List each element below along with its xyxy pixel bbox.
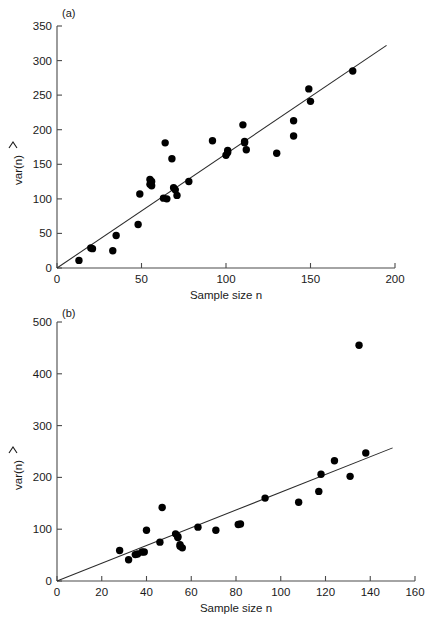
panel-a-yticklabel-100: 100 <box>33 193 52 205</box>
data-point <box>241 139 248 146</box>
panel-b-y-ticks <box>57 322 62 581</box>
data-point <box>331 457 338 464</box>
regression-line <box>57 45 387 268</box>
panel-b-xticklabel-0: 0 <box>54 586 60 598</box>
data-point <box>136 190 143 197</box>
data-point <box>156 538 163 545</box>
panel-b-yticklabel-200: 200 <box>33 471 52 483</box>
panel-a-xticklabel-100: 100 <box>216 273 235 285</box>
data-point <box>243 146 250 153</box>
panel-b-yticklabel-0: 0 <box>46 575 52 587</box>
data-point <box>109 247 116 254</box>
data-point <box>239 121 246 128</box>
panel-a-x-ticks <box>57 263 395 268</box>
data-point <box>349 67 356 74</box>
panel-b-xticklabel-160: 160 <box>405 586 424 598</box>
panel-a-y-ticklabels: 350 300 250 200 150 100 50 0 <box>33 20 52 274</box>
data-point <box>112 232 119 239</box>
data-point <box>362 449 369 456</box>
data-point <box>317 471 324 478</box>
data-point <box>179 544 186 551</box>
data-point <box>194 523 201 530</box>
panel-a-yticklabel-50: 50 <box>39 227 52 239</box>
panel-a-ylabel-group: var(n) <box>9 142 24 185</box>
panel-a-ylabel: var(n) <box>12 155 24 185</box>
panel-a-yticklabel-250: 250 <box>33 89 52 101</box>
panel-a: (a) var(n) 350 300 <box>0 0 442 312</box>
data-point <box>143 527 150 534</box>
panel-a-xticklabel-0: 0 <box>54 273 60 285</box>
panel-b-xticklabel-80: 80 <box>230 586 243 598</box>
data-point <box>290 132 297 139</box>
panel-b-xticklabel-140: 140 <box>361 586 380 598</box>
panel-b-canvas: (b) var(n) 500 400 300 200 100 <box>0 300 442 624</box>
panel-b-label: (b) <box>62 307 75 319</box>
panel-b-ylabel-hat-icon <box>9 447 17 453</box>
panel-b-x-ticks <box>57 576 415 581</box>
panel-b-ylabel-group: var(n) <box>9 447 24 490</box>
panel-b-xticklabel-20: 20 <box>95 586 108 598</box>
data-point <box>209 137 216 144</box>
panel-a-label: (a) <box>62 7 75 19</box>
panel-a-yticklabel-200: 200 <box>33 124 52 136</box>
data-point <box>158 504 165 511</box>
panel-b-xticklabel-40: 40 <box>140 586 153 598</box>
panel-b-ylabel: var(n) <box>12 460 24 490</box>
data-point <box>134 221 141 228</box>
data-point <box>173 192 180 199</box>
panel-b-points <box>116 342 370 564</box>
panel-b-y-ticklabels: 500 400 300 200 100 0 <box>33 316 52 587</box>
panel-b-xticklabel-100: 100 <box>271 586 290 598</box>
data-point <box>290 117 297 124</box>
data-point <box>305 85 312 92</box>
data-point <box>75 257 82 264</box>
data-point <box>355 342 362 349</box>
data-point <box>212 527 219 534</box>
data-point <box>185 178 192 185</box>
data-point <box>174 534 181 541</box>
panel-b-fit-line <box>57 448 393 581</box>
panel-a-xticklabel-200: 200 <box>385 273 404 285</box>
figure-scatter-plots: (a) var(n) 350 300 <box>0 0 442 624</box>
data-point <box>315 488 322 495</box>
data-point <box>125 556 132 563</box>
panel-b-xticklabel-60: 60 <box>185 586 198 598</box>
panel-a-xticklabel-50: 50 <box>135 273 148 285</box>
data-point <box>163 195 170 202</box>
data-point <box>168 155 175 162</box>
panel-b-yticklabel-100: 100 <box>33 523 52 535</box>
panel-a-x-ticklabels: 0 50 100 150 200 <box>54 273 405 285</box>
panel-a-points <box>75 67 356 264</box>
panel-a-yticklabel-150: 150 <box>33 158 52 170</box>
data-point <box>224 149 231 156</box>
panel-a-yticklabel-350: 350 <box>33 20 52 32</box>
data-point <box>116 547 123 554</box>
regression-line <box>57 448 393 581</box>
panel-b-x-ticklabels: 0 20 40 60 80 100 120 140 160 <box>54 586 425 598</box>
panel-a-y-ticks <box>57 26 62 268</box>
panel-a-ylabel-hat-icon <box>9 142 17 148</box>
panel-b-xticklabel-120: 120 <box>316 586 335 598</box>
data-point <box>237 520 244 527</box>
data-point <box>161 139 168 146</box>
panel-a-canvas: (a) var(n) 350 300 <box>0 0 442 312</box>
data-point <box>148 182 155 189</box>
panel-b-yticklabel-300: 300 <box>33 420 52 432</box>
data-point <box>307 98 314 105</box>
data-point <box>141 548 148 555</box>
panel-a-xticklabel-150: 150 <box>301 273 320 285</box>
data-point <box>295 499 302 506</box>
panel-a-yticklabel-300: 300 <box>33 55 52 67</box>
panel-b-yticklabel-400: 400 <box>33 368 52 380</box>
panel-b-yticklabel-500: 500 <box>33 316 52 328</box>
panel-b: (b) var(n) 500 400 300 200 100 <box>0 300 442 624</box>
data-point <box>273 150 280 157</box>
data-point <box>346 473 353 480</box>
data-point <box>261 494 268 501</box>
panel-b-xlabel: Sample size n <box>200 602 272 614</box>
panel-a-fit-line <box>57 45 387 268</box>
data-point <box>89 245 96 252</box>
panel-a-yticklabel-0: 0 <box>46 262 52 274</box>
